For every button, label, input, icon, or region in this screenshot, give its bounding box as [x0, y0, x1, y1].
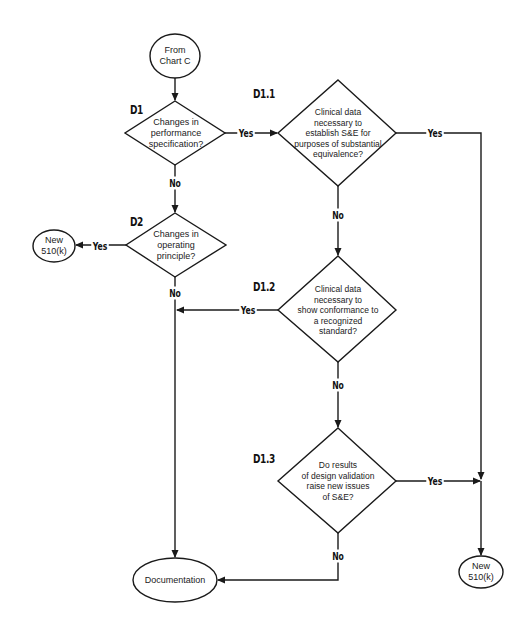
edge-d1-3-no — [218, 533, 338, 580]
d1-2-id-label: D1.2 — [253, 280, 275, 294]
d1-2-yes-label: Yes — [239, 304, 256, 317]
d1-no-label: No — [168, 177, 183, 190]
d1-2-text: Clinical data necessary to show conforma… — [298, 284, 379, 337]
d1-id-label: D1 — [130, 103, 143, 117]
d1-2-no-label: No — [331, 379, 346, 392]
d2-id-label: D2 — [130, 215, 143, 229]
d2-no-label: No — [168, 287, 183, 300]
d1-3-id-label: D1.3 — [253, 452, 275, 466]
documentation-text: Documentation — [145, 575, 206, 586]
d1-text: Changes in performance specification? — [149, 117, 204, 150]
d1-3-yes-label: Yes — [426, 475, 443, 488]
d1-3-text: Do results of design validation raise ne… — [302, 460, 375, 502]
d1-1-yes-label: Yes — [426, 127, 443, 140]
d1-3-no-label: No — [331, 550, 346, 563]
d2-text: Changes in operating principle? — [153, 229, 199, 262]
d1-1-no-label: No — [331, 209, 346, 222]
new510k-right-text: New 510(k) — [468, 561, 494, 583]
d2-yes-label: Yes — [91, 240, 108, 253]
start-text: From Chart C — [159, 45, 190, 67]
d1-yes-label: Yes — [237, 127, 254, 140]
d1-1-text: Clinical data necessary to establish S&E… — [294, 107, 381, 160]
new510k-left-text: New 510(k) — [41, 235, 67, 257]
edge-d1-1-yes — [396, 133, 481, 479]
d1-1-id-label: D1.1 — [253, 87, 275, 101]
